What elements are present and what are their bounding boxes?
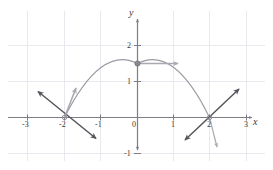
x-tick-label-1: 1 [171,121,175,129]
right-secant-vector [185,89,239,140]
graph-figure: -3 -2 -1 0 1 2 3 2 1 -1 x y [0,0,273,170]
x-axis-label: x [253,117,257,127]
x-tick-label--2: -2 [59,121,66,129]
y-tick-label-2: 2 [127,42,131,50]
plot-canvas [0,0,273,170]
x-tick-label-2: 2 [207,121,211,129]
grid-lines [8,11,265,161]
left-tangent-vector [65,88,77,118]
vertex-point [135,61,140,66]
y-tick-label--1: -1 [124,150,131,158]
y-tick-label-1: 1 [127,78,131,86]
y-axis-label: y [129,8,133,18]
left-secant-vector [38,92,96,139]
x-tick-label-0: 0 [132,121,136,129]
x-tick-label--1: -1 [95,121,102,129]
x-tick-label--3: -3 [22,121,29,129]
x-tick-label-3: 3 [244,121,248,129]
